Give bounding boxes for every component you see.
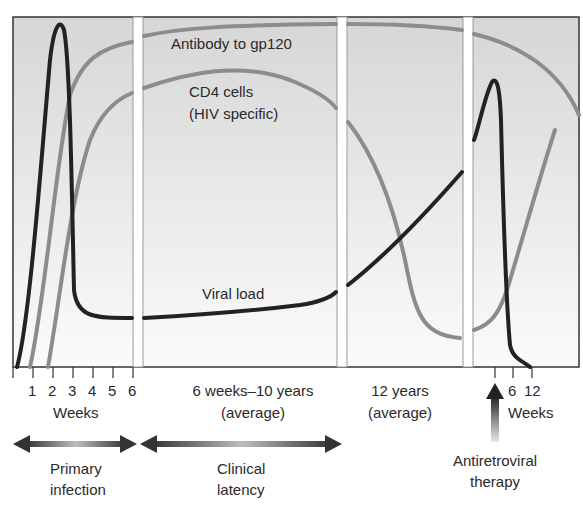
weeks-label-therapy: Weeks: [508, 404, 554, 421]
x-axis-ticks: [13, 367, 532, 378]
tick-week-3: 3: [68, 382, 76, 399]
tick-therapy-week-12: 12: [524, 382, 541, 399]
tick-week-5: 5: [108, 382, 116, 399]
primary-infection-arrow: [13, 435, 137, 453]
tick-week-6: 6: [128, 382, 136, 399]
tick-therapy-week-6: 6: [508, 382, 516, 399]
clinical-latency-arrow: [140, 435, 342, 453]
years-duration-line2: (average): [360, 404, 440, 421]
phase-primary-line1: Primary: [50, 460, 102, 477]
phase-therapy-line2: therapy: [440, 473, 550, 490]
antiretroviral-therapy-arrow: [486, 383, 504, 442]
cd4-label-line1: CD4 cells: [189, 83, 253, 100]
weeks-label: Weeks: [53, 404, 99, 421]
phase-latency-line1: Clinical: [217, 460, 265, 477]
years-duration-line1: 12 years: [360, 382, 440, 399]
phase-latency-line2: latency: [217, 481, 265, 498]
cd4-label-line2: (HIV specific): [189, 105, 278, 122]
latency-duration-line1: 6 weeks–10 years: [178, 382, 328, 399]
phase-therapy-line1: Antiretroviral: [440, 452, 550, 469]
phase-primary-line2: infection: [50, 481, 106, 498]
viral-load-label: Viral load: [202, 285, 264, 302]
tick-week-2: 2: [48, 382, 56, 399]
antibody-label: Antibody to gp120: [171, 35, 292, 52]
latency-duration-line2: (average): [178, 404, 328, 421]
tick-week-4: 4: [88, 382, 96, 399]
tick-week-1: 1: [28, 382, 36, 399]
hiv-course-diagram: [0, 0, 583, 507]
